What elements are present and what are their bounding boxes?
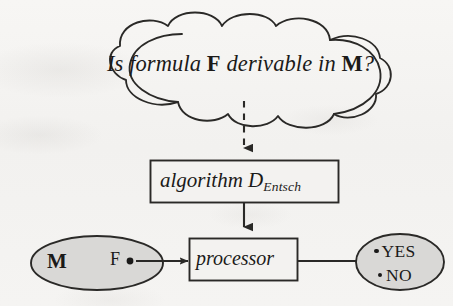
algorithm-label-subscript: Entsch [263,179,301,194]
diagram-canvas: Is formula F derivable in M? algorithm D… [0,0,453,306]
bullet-icon [374,249,379,254]
output-option-no: NO [378,267,412,285]
cloud-text-segment-3: ? [363,51,374,76]
cloud-text-segment-1: Is formula [107,51,207,76]
cloud-question-label: Is formula F derivable in M? [107,53,374,76]
formula-input-dot [127,258,134,265]
cloud-text-system-m: M [341,51,362,76]
algorithm-label-main: algorithm D [160,168,263,192]
output-option-yes-text: YES [382,241,416,261]
input-ellipse-label-f: F [110,250,120,268]
output-option-no-text: NO [386,265,412,285]
cloud-text-segment-2: derivable in [221,51,342,76]
algorithm-box-label: algorithm DEntsch [160,170,301,194]
cloud-text-formula-f: F [207,51,221,76]
input-ellipse-label-m: M [47,251,67,272]
processor-box-label: processor [196,248,274,268]
output-option-yes: YES [374,243,415,261]
bullet-icon [378,273,382,277]
